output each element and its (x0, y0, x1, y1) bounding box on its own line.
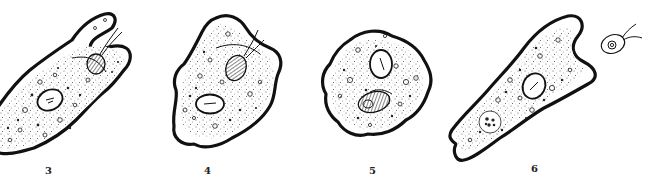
panel-4: 4 (160, 0, 310, 191)
flagellate-prey (87, 54, 105, 74)
panel-label-4: 4 (204, 165, 211, 176)
panel-label-6: 6 (531, 163, 538, 174)
panel-6: 6 (440, 0, 655, 191)
amoeba-4-drawing (160, 0, 310, 191)
panel-label-5: 5 (369, 165, 376, 176)
panel-5: 5 (310, 0, 450, 191)
digestive-vacuole (479, 111, 501, 133)
amoeba-phagocytosis-figure: 3 4 (0, 0, 655, 191)
panel-label-3: 3 (45, 165, 52, 176)
amoeba-3-drawing (0, 0, 160, 191)
amoeba-5-drawing (310, 0, 450, 191)
amoeba-6-drawing (440, 0, 655, 191)
nucleus (370, 50, 392, 78)
panel-3: 3 (0, 0, 160, 191)
free-flagellate (599, 24, 642, 57)
